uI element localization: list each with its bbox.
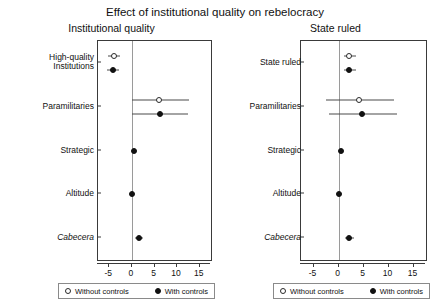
x-axis-tick [176, 263, 177, 267]
x-axis-label: 15 [194, 268, 203, 278]
legend-entry-without-controls: Without controls [280, 287, 344, 296]
legend-entry-without-controls: Without controls [65, 287, 129, 296]
legend-left: Without controls With controls [58, 283, 215, 299]
point-with-controls [346, 67, 352, 73]
legend-label-without: Without controls [290, 287, 344, 296]
chart-root: Effect of institutional quality on rebel… [0, 0, 430, 308]
panel-institutional-quality: Institutional quality -5051015 Without c… [0, 22, 215, 308]
x-axis-label: 0 [335, 268, 340, 278]
x-axis-tick [363, 263, 364, 267]
chart-title: Effect of institutional quality on rebel… [0, 6, 430, 18]
y-axis-tick [97, 237, 101, 238]
x-axis-tick [388, 263, 389, 267]
x-axis-tick [313, 263, 314, 267]
y-axis-label: Altitude [215, 189, 301, 198]
legend-entry-with-controls: With controls [155, 287, 208, 296]
point-with-controls [157, 111, 163, 117]
y-axis-label: Cabecera [215, 233, 301, 242]
x-axis-label: 15 [408, 268, 417, 278]
panel-subtitle: State ruled [245, 22, 426, 34]
legend-entry-with-controls: With controls [370, 287, 423, 296]
point-with-controls [131, 148, 137, 154]
x-axis-label: -5 [105, 268, 113, 278]
x-axis-tick [108, 263, 109, 267]
y-axis-label: Paramilitaries [0, 101, 94, 110]
legend-label-without: Without controls [75, 287, 129, 296]
y-axis-tick [97, 61, 101, 62]
open-circle-icon [65, 288, 71, 294]
point-without-controls [111, 53, 117, 59]
point-with-controls [129, 191, 135, 197]
x-axis-label: 10 [383, 268, 392, 278]
plot-area-left [97, 40, 212, 261]
point-with-controls [359, 111, 365, 117]
open-circle-icon [280, 288, 286, 294]
legend-label-with: With controls [165, 287, 208, 296]
x-axis-label: 0 [129, 268, 134, 278]
y-axis-tick [97, 193, 101, 194]
y-axis-label: Paramilitaries [215, 101, 301, 110]
point-without-controls [356, 97, 362, 103]
point-with-controls [136, 235, 142, 241]
point-with-controls [110, 67, 116, 73]
point-with-controls [338, 148, 344, 154]
x-axis-label: 10 [171, 268, 180, 278]
x-axis-label: -5 [309, 268, 317, 278]
plot-area-right [300, 40, 427, 261]
x-axis-tick [131, 263, 132, 267]
y-axis-label: Altitude [0, 189, 94, 198]
y-axis-label: Strategic [215, 145, 301, 154]
filled-circle-icon [155, 288, 161, 294]
x-axis-label: 5 [360, 268, 365, 278]
point-without-controls [346, 53, 352, 59]
point-with-controls [346, 235, 352, 241]
x-axis-tick [338, 263, 339, 267]
legend-label-with: With controls [380, 287, 423, 296]
legend-right: Without controls With controls [273, 283, 430, 299]
y-axis-label: Strategic [0, 145, 94, 154]
filled-circle-icon [370, 288, 376, 294]
x-axis-tick [199, 263, 200, 267]
point-without-controls [156, 97, 162, 103]
panel-subtitle: Institutional quality [18, 22, 205, 34]
y-axis-label: High-quality Institutions [0, 53, 94, 71]
x-axis-tick [154, 263, 155, 267]
panel-state-ruled: State ruled -5051015 Without controls Wi… [215, 22, 430, 308]
point-with-controls [336, 191, 342, 197]
y-axis-label: Cabecera [0, 233, 94, 242]
y-axis-label: State ruled [215, 57, 301, 66]
y-axis-tick [97, 149, 101, 150]
x-axis-tick [413, 263, 414, 267]
x-axis-label: 5 [151, 268, 156, 278]
y-axis-tick [97, 105, 101, 106]
